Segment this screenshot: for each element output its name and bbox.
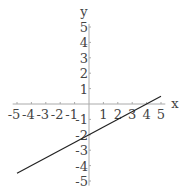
y-tick-label: 3 [80,51,88,66]
x-tick-label: 3 [128,107,136,122]
y-tick-label: -1 [75,112,88,127]
x-tick-label: -4 [22,107,35,122]
x-axis-label: x [171,96,179,111]
y-tick-label: -4 [75,159,88,174]
y-axis-label: y [79,4,88,19]
x-tick-label: 4 [142,107,150,122]
line-chart: -5-4-3-2-11234554321-1-2-3-4-5yx [0,0,183,196]
x-tick-label: 5 [157,107,165,122]
y-tick-label: 4 [80,35,88,50]
x-tick-label: 1 [99,107,107,122]
y-tick-label: 5 [80,20,88,35]
x-tick-label: -5 [8,107,21,122]
y-tick-label: 1 [80,82,88,97]
x-tick-label: -2 [51,107,64,122]
y-tick-label: 2 [80,66,88,81]
y-tick-label: -5 [75,174,88,189]
y-tick-label: -3 [75,143,88,158]
x-tick-label: -3 [36,107,49,122]
